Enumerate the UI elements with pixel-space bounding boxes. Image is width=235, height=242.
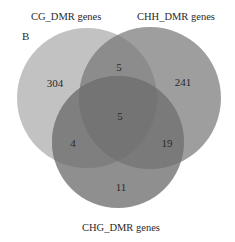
count-chh-chg: 19 <box>162 137 173 149</box>
chh-set-label: CHH_DMR genes <box>137 11 215 22</box>
count-cg-chg: 4 <box>70 137 76 149</box>
count-chg-only: 11 <box>116 181 127 193</box>
count-chh-only: 241 <box>175 76 192 88</box>
count-all-three: 5 <box>117 110 123 122</box>
cg-set-label: CG_DMR genes <box>31 11 101 22</box>
chg-set-label: CHG_DMR genes <box>82 222 160 233</box>
count-cg-only: 304 <box>47 77 64 89</box>
panel-letter: B <box>22 30 29 42</box>
count-cg-chh: 5 <box>116 61 122 73</box>
